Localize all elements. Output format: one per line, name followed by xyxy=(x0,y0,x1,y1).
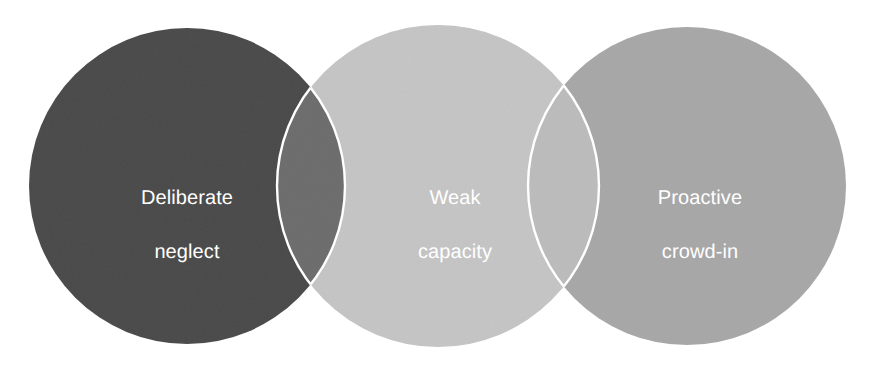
venn-diagram-canvas: Deliberate neglect Weak capacity Proacti… xyxy=(0,0,872,368)
venn-diagram-graphic xyxy=(0,0,872,368)
